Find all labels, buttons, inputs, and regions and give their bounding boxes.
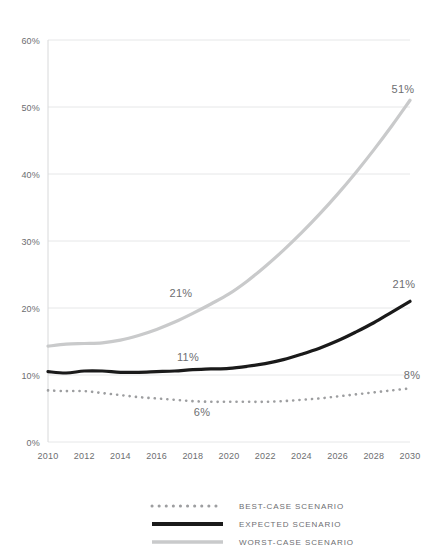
legend-label-best-case: BEST-CASE SCENARIO (239, 502, 344, 511)
series-line-expected (48, 301, 410, 373)
y-axis-tick-label: 0% (27, 438, 40, 448)
y-axis-tick-label: 50% (21, 103, 40, 113)
expected-end-label: 21% (393, 278, 416, 290)
worst-case-end-label: 51% (392, 83, 415, 95)
x-axis-tick-label: 2028 (363, 451, 384, 461)
chart-legend: BEST-CASE SCENARIO EXPECTED SCENARIO WOR… (152, 502, 354, 547)
x-axis-tick-label: 2020 (219, 451, 240, 461)
worst-case-mid-label: 21% (170, 287, 193, 299)
series-line-best-case (48, 388, 410, 401)
legend-label-worst-case: WORST-CASE SCENARIO (239, 538, 354, 547)
y-axis-tick-label: 60% (21, 36, 40, 46)
x-axis-tick-label: 2018 (182, 451, 203, 461)
line-chart: 60%50%40%30%20%10%0% 2010201220142016201… (0, 0, 439, 559)
gridlines (48, 40, 410, 442)
x-axis-tick-label: 2014 (110, 451, 131, 461)
y-axis-tick-label: 40% (21, 170, 40, 180)
x-axis-tick-label: 2022 (255, 451, 276, 461)
legend-label-expected: EXPECTED SCENARIO (239, 520, 341, 529)
chart-container: 60%50%40%30%20%10%0% 2010201220142016201… (0, 0, 439, 559)
x-axis-tick-label: 2030 (400, 451, 421, 461)
y-axis-tick-label: 10% (21, 371, 40, 381)
y-axis-tick-label: 20% (21, 304, 40, 314)
x-axis-tick-label: 2026 (327, 451, 348, 461)
y-axis-tick-labels: 60%50%40%30%20%10%0% (21, 36, 40, 448)
x-axis-tick-label: 2024 (291, 451, 312, 461)
best-case-end-label: 8% (404, 369, 421, 381)
y-axis-tick-label: 30% (21, 237, 40, 247)
x-axis-tick-label: 2016 (146, 451, 167, 461)
x-axis-tick-label: 2010 (38, 451, 59, 461)
series-line-worst-case (48, 100, 410, 346)
x-axis-tick-labels: 2010201220142016201820202022202420262028… (38, 451, 421, 461)
best-case-mid-label: 6% (194, 406, 211, 418)
x-axis-tick-label: 2012 (74, 451, 95, 461)
expected-mid-label: 11% (177, 351, 199, 363)
